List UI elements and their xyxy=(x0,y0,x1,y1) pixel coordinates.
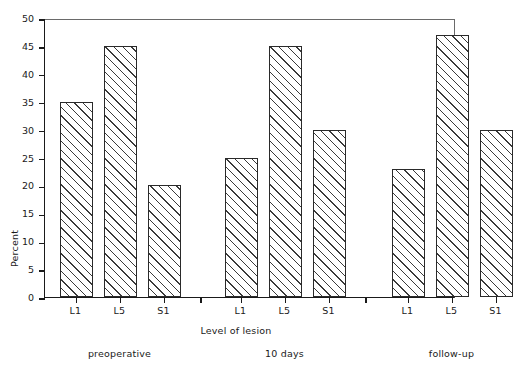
plot-area xyxy=(44,19,455,298)
bar xyxy=(104,46,137,297)
y-axis-tick-label: 20 xyxy=(8,181,34,191)
x-axis-tick-label: L5 xyxy=(100,305,140,316)
x-axis-tick-label: L1 xyxy=(221,305,261,316)
y-axis-tick-label: 45 xyxy=(8,42,34,52)
bar xyxy=(60,102,93,297)
x-axis-tick-mark xyxy=(120,297,121,303)
x-axis-tick-label: S1 xyxy=(144,305,184,316)
x-axis-tick-mark xyxy=(200,297,201,303)
bar xyxy=(436,35,469,297)
x-axis-tick-label: L5 xyxy=(432,305,472,316)
group-label: 10 days xyxy=(205,348,365,359)
x-axis-tick-label: L5 xyxy=(265,305,305,316)
x-axis-tick-mark xyxy=(496,297,497,303)
bar xyxy=(313,130,346,297)
y-axis-tick-label: 50 xyxy=(8,14,34,24)
x-axis-tick-mark xyxy=(329,297,330,303)
bars-layer xyxy=(45,20,454,297)
y-axis-tick-label: 15 xyxy=(8,209,34,219)
bar xyxy=(480,130,513,297)
x-axis-label: Level of lesion xyxy=(0,325,472,336)
x-axis-tick-mark xyxy=(164,297,165,303)
x-axis-tick-label: L1 xyxy=(388,305,428,316)
y-axis-tick-label: 40 xyxy=(8,70,34,80)
group-label: follow-up xyxy=(372,348,517,359)
x-axis-tick-mark xyxy=(241,297,242,303)
y-axis-tick-label: 35 xyxy=(8,98,34,108)
x-axis-tick-label: S1 xyxy=(309,305,349,316)
bar xyxy=(148,185,181,297)
x-axis-tick-mark xyxy=(408,297,409,303)
x-axis-tick-label: L1 xyxy=(56,305,96,316)
y-axis-tick-label: 0 xyxy=(8,293,34,303)
x-axis-tick-mark xyxy=(452,297,453,303)
y-axis-tick-label: 25 xyxy=(8,154,34,164)
x-axis-tick-mark xyxy=(365,297,366,303)
bar xyxy=(269,46,302,297)
y-axis-tick-label: 5 xyxy=(8,265,34,275)
bar xyxy=(225,158,258,298)
bar xyxy=(392,169,425,297)
x-axis-tick-mark xyxy=(76,297,77,303)
y-axis-tick-label: 30 xyxy=(8,126,34,136)
x-axis-tick-mark xyxy=(285,297,286,303)
group-label: preoperative xyxy=(40,348,200,359)
x-axis-tick-label: S1 xyxy=(476,305,516,316)
y-axis-tick-mark xyxy=(39,298,45,299)
y-axis-tick-label: 10 xyxy=(8,237,34,247)
